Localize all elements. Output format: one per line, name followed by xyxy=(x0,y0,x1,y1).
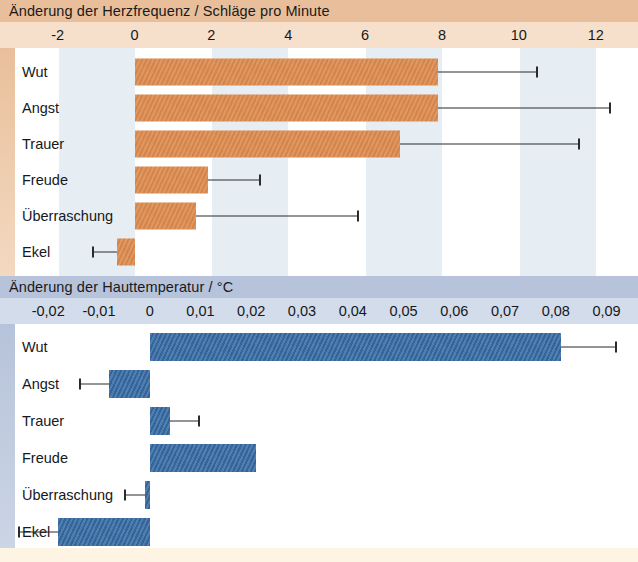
chart-row: Wut xyxy=(0,54,638,90)
category-label: Wut xyxy=(22,339,48,355)
data-bar xyxy=(135,167,208,194)
data-bar xyxy=(109,370,150,398)
data-bar xyxy=(135,131,400,158)
x-tick-label: 10 xyxy=(511,22,527,48)
panel1-plot-area: Emotionen WutAngstTrauerFreudeÜberraschu… xyxy=(0,48,638,276)
category-label: Wut xyxy=(22,64,48,80)
data-bar xyxy=(58,518,149,546)
panel1-x-axis-ticks: -2024681012 xyxy=(0,22,638,48)
data-bar xyxy=(145,481,150,509)
x-tick-label: 0 xyxy=(146,298,154,324)
error-bar-line xyxy=(400,144,581,145)
chart-row: Überraschung xyxy=(0,198,638,234)
x-tick-label: 6 xyxy=(361,22,369,48)
data-bar xyxy=(117,239,134,266)
error-bar-line xyxy=(438,72,538,73)
error-bar-line xyxy=(170,420,200,421)
error-bar-cap xyxy=(609,103,611,114)
x-tick-label: -2 xyxy=(51,22,64,48)
x-tick-label: 0,01 xyxy=(186,298,214,324)
category-label: Angst xyxy=(22,376,59,392)
x-tick-label: -0,01 xyxy=(82,298,115,324)
x-tick-label: 0,04 xyxy=(339,298,367,324)
chart-row: Wut xyxy=(0,328,638,365)
error-bar-cap xyxy=(259,175,261,186)
error-bar-line xyxy=(561,346,617,347)
panel1-title: Änderung der Herzfrequenz / Schläge pro … xyxy=(0,0,638,22)
category-label: Trauer xyxy=(22,136,64,152)
chart-row: Freude xyxy=(0,439,638,476)
chart-row: Angst xyxy=(0,90,638,126)
x-tick-label: 0,08 xyxy=(542,298,570,324)
chart-row: Ekel xyxy=(0,513,638,550)
error-bar-line xyxy=(196,216,359,217)
x-tick-label: 0,06 xyxy=(440,298,468,324)
x-tick-label: 0,09 xyxy=(592,298,620,324)
x-tick-label: 4 xyxy=(284,22,292,48)
category-label: Freude xyxy=(22,450,68,466)
error-bar-cap xyxy=(79,378,81,389)
category-label: Freude xyxy=(22,172,68,188)
error-bar-cap xyxy=(18,526,20,537)
x-tick-label: 0,02 xyxy=(237,298,265,324)
chart-row: Angst xyxy=(0,365,638,402)
error-bar-cap xyxy=(124,489,126,500)
x-tick-label: 8 xyxy=(438,22,446,48)
data-bar xyxy=(150,444,257,472)
panel2-x-axis-ticks: -0,02-0,0100,010,020,030,040,050,060,070… xyxy=(0,298,638,324)
category-label: Angst xyxy=(22,100,59,116)
chart-row: Freude xyxy=(0,162,638,198)
data-bar xyxy=(135,203,196,230)
category-label: Trauer xyxy=(22,413,64,429)
data-bar xyxy=(135,59,439,86)
error-bar-cap xyxy=(615,341,617,352)
error-bar-line xyxy=(79,383,109,384)
chart-row: Trauer xyxy=(0,402,638,439)
x-tick-label: 2 xyxy=(207,22,215,48)
error-bar-line xyxy=(208,180,262,181)
chart-row: Trauer xyxy=(0,126,638,162)
error-bar-line xyxy=(438,108,611,109)
x-tick-label: 0,07 xyxy=(491,298,519,324)
data-bar xyxy=(150,407,170,435)
chart-row: Ekel xyxy=(0,234,638,270)
x-tick-label: 0,05 xyxy=(389,298,417,324)
error-bar-cap xyxy=(357,211,359,222)
x-tick-label: 0 xyxy=(130,22,138,48)
error-bar-line xyxy=(124,494,144,495)
panel2-plot-area: Emotionen WutAngstTrauerFreudeÜberraschu… xyxy=(0,324,638,562)
panel2-title: Änderung der Hauttemperatur / °C xyxy=(0,276,638,298)
data-bar xyxy=(135,95,439,122)
error-bar-cap xyxy=(536,67,538,78)
data-bar xyxy=(150,333,561,361)
error-bar-cap xyxy=(578,139,580,150)
error-bar-cap xyxy=(92,247,94,258)
x-tick-label: -0,02 xyxy=(32,298,65,324)
error-bar-cap xyxy=(198,415,200,426)
emotion-physiology-figure: Änderung der Herzfrequenz / Schläge pro … xyxy=(0,0,638,562)
error-bar-line xyxy=(18,531,59,532)
panel-heart-rate: Änderung der Herzfrequenz / Schläge pro … xyxy=(0,0,638,276)
category-label: Überraschung xyxy=(22,208,113,224)
error-bar-line xyxy=(92,252,117,253)
x-tick-label: 12 xyxy=(588,22,604,48)
category-label: Überraschung xyxy=(22,487,113,503)
chart-row: Überraschung xyxy=(0,476,638,513)
category-label: Ekel xyxy=(22,244,50,260)
panel-skin-temperature: Änderung der Hauttemperatur / °C -0,02-0… xyxy=(0,276,638,562)
figure-footer-strip xyxy=(0,548,638,562)
x-tick-label: 0,03 xyxy=(288,298,316,324)
